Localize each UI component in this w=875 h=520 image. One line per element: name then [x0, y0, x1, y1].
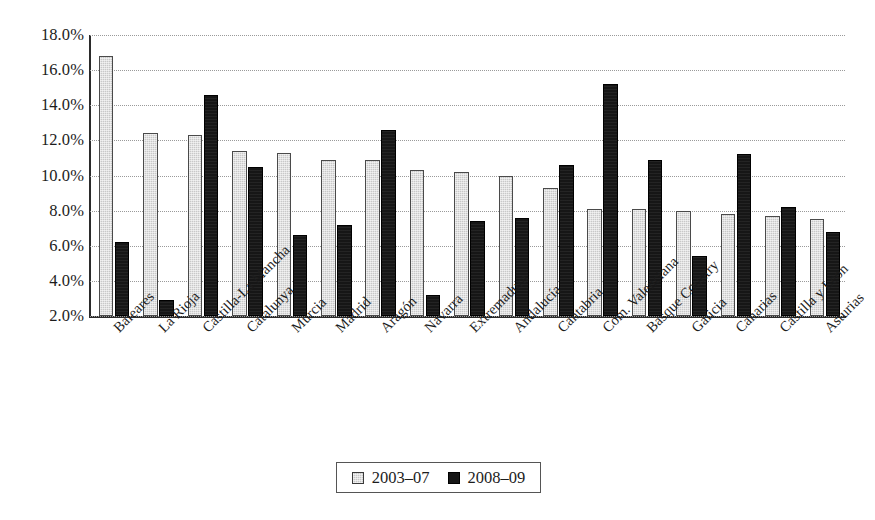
- bar-series-2008-09: [204, 95, 219, 316]
- y-axis-tick-label: 16.0%: [41, 62, 84, 79]
- y-axis-tick-label: 6.0%: [49, 238, 84, 255]
- bar-group: [99, 35, 130, 316]
- bar-group: [321, 35, 352, 316]
- bar-series-2008-09: [692, 256, 707, 316]
- bar-group: [587, 35, 618, 316]
- bar-group: [143, 35, 174, 316]
- bar-series-2008-09: [781, 207, 796, 316]
- bar-series-2008-09: [293, 235, 308, 316]
- bar-series-2008-09: [603, 84, 618, 316]
- bar-group: [721, 35, 752, 316]
- legend-item-series-2: 2008–09: [448, 468, 526, 488]
- y-axis-tick-label: 10.0%: [41, 168, 84, 185]
- bar-series-2008-09: [381, 130, 396, 316]
- bar-series-2008-09: [470, 221, 485, 316]
- legend-swatch-2003-07: [352, 472, 364, 484]
- legend-label-2003-07: 2003–07: [372, 468, 430, 488]
- bar-series-2008-09: [159, 300, 174, 316]
- plot-area: [90, 35, 845, 316]
- bar-group: [765, 35, 796, 316]
- bar-group: [454, 35, 485, 316]
- bar-series-2003-07: [410, 170, 425, 316]
- bar-series-2008-09: [559, 165, 574, 316]
- bar-group: [499, 35, 530, 316]
- gridline: [90, 316, 845, 317]
- bar-series-2003-07: [676, 211, 691, 316]
- bar-series-2003-07: [810, 219, 825, 316]
- y-axis-tick-label: 18.0%: [41, 27, 84, 44]
- bar-series-2008-09: [648, 160, 663, 316]
- chart-legend: 2003–07 2008–09: [336, 462, 541, 493]
- y-axis-tick-label: 14.0%: [41, 97, 84, 114]
- y-axis-tick-label: 12.0%: [41, 132, 84, 149]
- y-axis-tick-label: 8.0%: [49, 203, 84, 220]
- bar-series-2008-09: [337, 225, 352, 316]
- bar-series-2003-07: [321, 160, 336, 316]
- bar-group: [810, 35, 841, 316]
- bar-series-2003-07: [765, 216, 780, 316]
- bar-group: [632, 35, 663, 316]
- bar-series-2003-07: [721, 214, 736, 316]
- bar-group: [410, 35, 441, 316]
- bar-chart: 18.0%16.0%14.0%12.0%10.0%8.0%6.0%4.0%2.0…: [0, 0, 875, 520]
- bar-series-2003-07: [99, 56, 114, 316]
- bar-series-2003-07: [277, 153, 292, 316]
- bar-series-2008-09: [426, 295, 441, 316]
- bar-series-2003-07: [143, 133, 158, 316]
- bar-series-2003-07: [232, 151, 247, 316]
- y-axis-tick-labels: 18.0%16.0%14.0%12.0%10.0%8.0%6.0%4.0%2.0…: [0, 0, 84, 320]
- bar-series-2003-07: [365, 160, 380, 316]
- legend-item-series-1: 2003–07: [352, 468, 430, 488]
- bar-series-2008-09: [115, 242, 130, 316]
- bar-group: [365, 35, 396, 316]
- bar-group: [277, 35, 308, 316]
- bar-series-2003-07: [632, 209, 647, 316]
- bar-series-2008-09: [248, 167, 263, 316]
- y-axis-tick-label: 4.0%: [49, 273, 84, 290]
- bar-group: [543, 35, 574, 316]
- bar-series-2003-07: [499, 176, 514, 317]
- legend-swatch-2008-09: [448, 472, 460, 484]
- bar-group: [188, 35, 219, 316]
- bar-series-2003-07: [543, 188, 558, 316]
- bar-series-2008-09: [515, 218, 530, 316]
- bar-series-2003-07: [454, 172, 469, 316]
- y-axis-tick-label: 2.0%: [49, 308, 84, 325]
- bar-series-2008-09: [826, 232, 841, 316]
- bar-group: [232, 35, 263, 316]
- bar-series-2003-07: [587, 209, 602, 316]
- legend-label-2008-09: 2008–09: [468, 468, 526, 488]
- bar-series-2003-07: [188, 135, 203, 316]
- bar-group: [676, 35, 707, 316]
- bar-series-2008-09: [737, 154, 752, 316]
